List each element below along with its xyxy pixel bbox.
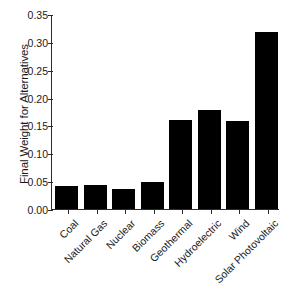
bar [112, 189, 135, 209]
bar [169, 120, 192, 209]
plot-area [51, 15, 279, 210]
y-axis-tick-mark [48, 126, 53, 127]
y-axis-tick-mark [48, 71, 53, 72]
x-axis-tick-mark [182, 209, 183, 214]
x-axis-tick-mark [268, 209, 269, 214]
x-axis-tick-mark [154, 209, 155, 214]
y-axis-tick-mark [48, 43, 53, 44]
y-axis-tick-labels: 0.000.050.100.150.200.250.300.35 [16, 0, 48, 286]
y-axis-tick-label: 0.35 [16, 9, 48, 21]
y-axis-tick-label: 0.25 [16, 65, 48, 77]
x-axis-tick-mark [97, 209, 98, 214]
y-axis-tick-mark [48, 99, 53, 100]
y-axis-tick-mark [48, 210, 53, 211]
y-axis-tick-mark [48, 15, 53, 16]
bar [84, 185, 107, 210]
y-axis-tick-label: 0.10 [16, 148, 48, 160]
x-axis-tick-mark [125, 209, 126, 214]
bar-chart: Final Weight for Alternatives 0.000.050.… [0, 0, 281, 286]
bar [55, 186, 78, 209]
x-axis-tick-label: Coal [57, 217, 81, 241]
bar [198, 110, 221, 209]
bar [255, 32, 278, 209]
bar [226, 121, 249, 209]
y-axis-tick-mark [48, 154, 53, 155]
y-axis-tick-label: 0.30 [16, 37, 48, 49]
y-axis-tick-mark [48, 182, 53, 183]
y-axis-tick-label: 0.15 [16, 120, 48, 132]
y-axis-tick-label: 0.00 [16, 204, 48, 216]
x-axis-tick-mark [211, 209, 212, 214]
x-axis-tick-mark [68, 209, 69, 214]
x-axis-tick-mark [239, 209, 240, 214]
bar-series [52, 15, 279, 209]
y-axis-tick-label: 0.05 [16, 176, 48, 188]
bar [141, 182, 164, 209]
y-axis-tick-label: 0.20 [16, 93, 48, 105]
x-axis-tick-label: Wind [226, 217, 251, 242]
